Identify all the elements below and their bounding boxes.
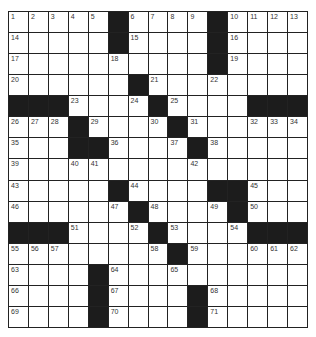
- grid-cell[interactable]: 47: [109, 202, 128, 222]
- grid-cell[interactable]: [288, 307, 307, 327]
- grid-cell[interactable]: [248, 265, 267, 285]
- grid-cell[interactable]: [268, 181, 287, 201]
- grid-cell[interactable]: [129, 54, 148, 74]
- grid-cell[interactable]: [208, 117, 227, 137]
- grid-cell[interactable]: [268, 54, 287, 74]
- grid-cell[interactable]: [168, 54, 187, 74]
- grid-cell[interactable]: [49, 75, 68, 95]
- grid-cell[interactable]: [109, 223, 128, 243]
- grid-cell[interactable]: [129, 265, 148, 285]
- grid-cell[interactable]: [188, 54, 207, 74]
- grid-cell[interactable]: [168, 75, 187, 95]
- grid-cell[interactable]: 40: [69, 159, 88, 179]
- grid-cell[interactable]: [149, 286, 168, 306]
- grid-cell[interactable]: [149, 307, 168, 327]
- grid-cell[interactable]: 33: [268, 117, 287, 137]
- grid-cell[interactable]: [29, 138, 48, 158]
- grid-cell[interactable]: [228, 75, 247, 95]
- grid-cell[interactable]: [149, 54, 168, 74]
- grid-cell[interactable]: 54: [228, 223, 247, 243]
- grid-cell[interactable]: [208, 159, 227, 179]
- grid-cell[interactable]: [29, 181, 48, 201]
- grid-cell[interactable]: [149, 138, 168, 158]
- grid-cell[interactable]: [49, 138, 68, 158]
- grid-cell[interactable]: [69, 244, 88, 264]
- grid-cell[interactable]: 50: [248, 202, 267, 222]
- grid-cell[interactable]: [69, 286, 88, 306]
- grid-cell[interactable]: 36: [109, 138, 128, 158]
- grid-cell[interactable]: 1: [9, 12, 28, 32]
- grid-cell[interactable]: [228, 159, 247, 179]
- grid-cell[interactable]: 29: [89, 117, 108, 137]
- grid-cell[interactable]: [89, 181, 108, 201]
- grid-cell[interactable]: [109, 96, 128, 116]
- grid-cell[interactable]: 14: [9, 33, 28, 53]
- grid-cell[interactable]: [268, 33, 287, 53]
- grid-cell[interactable]: [129, 286, 148, 306]
- grid-cell[interactable]: [248, 75, 267, 95]
- grid-cell[interactable]: 20: [9, 75, 28, 95]
- grid-cell[interactable]: [208, 96, 227, 116]
- grid-cell[interactable]: 70: [109, 307, 128, 327]
- grid-cell[interactable]: [248, 307, 267, 327]
- grid-cell[interactable]: [29, 307, 48, 327]
- grid-cell[interactable]: 18: [109, 54, 128, 74]
- grid-cell[interactable]: 48: [149, 202, 168, 222]
- grid-cell[interactable]: [268, 159, 287, 179]
- grid-cell[interactable]: 51: [69, 223, 88, 243]
- grid-cell[interactable]: [69, 265, 88, 285]
- grid-cell[interactable]: 49: [208, 202, 227, 222]
- grid-cell[interactable]: [89, 244, 108, 264]
- grid-cell[interactable]: [149, 159, 168, 179]
- grid-cell[interactable]: [168, 307, 187, 327]
- grid-cell[interactable]: [248, 33, 267, 53]
- grid-cell[interactable]: [288, 33, 307, 53]
- grid-cell[interactable]: [188, 75, 207, 95]
- grid-cell[interactable]: [228, 138, 247, 158]
- grid-cell[interactable]: [29, 286, 48, 306]
- grid-cell[interactable]: [188, 202, 207, 222]
- grid-cell[interactable]: [89, 223, 108, 243]
- grid-cell[interactable]: [109, 159, 128, 179]
- grid-cell[interactable]: 7: [149, 12, 168, 32]
- grid-cell[interactable]: 59: [188, 244, 207, 264]
- grid-cell[interactable]: [29, 75, 48, 95]
- grid-cell[interactable]: [228, 244, 247, 264]
- grid-cell[interactable]: 23: [69, 96, 88, 116]
- grid-cell[interactable]: 64: [109, 265, 128, 285]
- grid-cell[interactable]: [208, 244, 227, 264]
- grid-cell[interactable]: [29, 202, 48, 222]
- grid-cell[interactable]: [268, 307, 287, 327]
- grid-cell[interactable]: 57: [49, 244, 68, 264]
- grid-cell[interactable]: [208, 223, 227, 243]
- grid-cell[interactable]: [129, 244, 148, 264]
- grid-cell[interactable]: [129, 307, 148, 327]
- grid-cell[interactable]: 5: [89, 12, 108, 32]
- grid-cell[interactable]: 19: [228, 54, 247, 74]
- grid-cell[interactable]: [109, 117, 128, 137]
- grid-cell[interactable]: [188, 265, 207, 285]
- grid-cell[interactable]: [288, 138, 307, 158]
- grid-cell[interactable]: 8: [168, 12, 187, 32]
- grid-cell[interactable]: 24: [129, 96, 148, 116]
- grid-cell[interactable]: 32: [248, 117, 267, 137]
- grid-cell[interactable]: 61: [268, 244, 287, 264]
- grid-cell[interactable]: [288, 286, 307, 306]
- grid-cell[interactable]: [109, 244, 128, 264]
- grid-cell[interactable]: [129, 138, 148, 158]
- grid-cell[interactable]: 16: [228, 33, 247, 53]
- grid-cell[interactable]: 34: [288, 117, 307, 137]
- grid-cell[interactable]: [248, 286, 267, 306]
- grid-cell[interactable]: 42: [188, 159, 207, 179]
- grid-cell[interactable]: [228, 265, 247, 285]
- grid-cell[interactable]: [188, 33, 207, 53]
- grid-cell[interactable]: [49, 33, 68, 53]
- grid-cell[interactable]: [29, 159, 48, 179]
- grid-cell[interactable]: 6: [129, 12, 148, 32]
- grid-cell[interactable]: [228, 286, 247, 306]
- grid-cell[interactable]: [69, 307, 88, 327]
- grid-cell[interactable]: 65: [168, 265, 187, 285]
- grid-cell[interactable]: [248, 138, 267, 158]
- grid-cell[interactable]: [89, 54, 108, 74]
- grid-cell[interactable]: [49, 307, 68, 327]
